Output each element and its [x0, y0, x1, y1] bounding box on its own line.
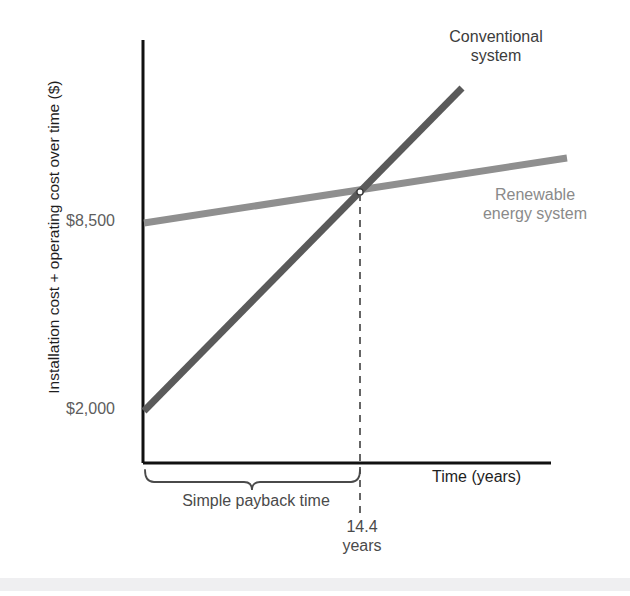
renewable-energy-system-label-line1: Renewable — [450, 186, 620, 205]
y-axis-label: Installation cost + operating cost over … — [45, 27, 63, 447]
renewable-energy-system-label: Renewable energy system — [450, 186, 620, 224]
y-tick-label-8500: $8,500 — [66, 212, 115, 231]
intersection-value-annotation: 14.4 years — [300, 518, 424, 556]
x-axis-label: Time (years) — [432, 468, 521, 487]
conventional-system-line — [144, 88, 462, 411]
renewable-energy-system-label-line2: energy system — [450, 205, 620, 224]
conventional-system-label-line2: system — [416, 47, 576, 66]
conventional-system-label: Conventional system — [416, 28, 576, 66]
simple-payback-time-label: Simple payback time — [148, 492, 364, 511]
conventional-system-label-line1: Conventional — [416, 28, 576, 47]
intersection-value-unit: years — [300, 537, 424, 556]
axes-group — [143, 40, 551, 463]
y-tick-label-2000: $2,000 — [66, 400, 115, 419]
intersection-value-number: 14.4 — [300, 518, 424, 537]
simple-payback-brace — [145, 470, 360, 490]
chart-page: Installation cost + operating cost over … — [0, 0, 630, 596]
scan-artifact-band — [0, 578, 630, 591]
